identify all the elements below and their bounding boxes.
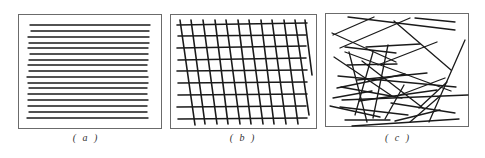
fiber-line xyxy=(178,82,307,83)
panel-a-unidirectional xyxy=(19,15,162,129)
caption-c: ( c ) xyxy=(385,132,411,143)
caption-b: ( b ) xyxy=(230,132,257,143)
fiber-line xyxy=(178,118,307,119)
panel-c-random xyxy=(326,14,469,127)
caption-a: ( a ) xyxy=(73,132,100,143)
panel-b-orthogonal-grid xyxy=(171,15,317,129)
fiber-line xyxy=(177,70,307,71)
fiber-line xyxy=(178,94,307,95)
fiber-line xyxy=(177,106,306,107)
